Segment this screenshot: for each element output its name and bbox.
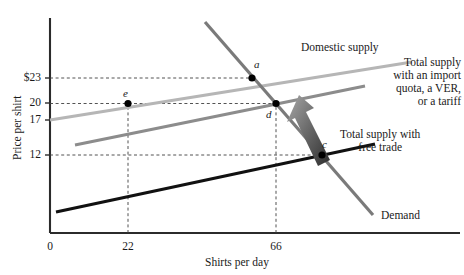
- y-tick-label-23: $23: [1, 71, 41, 84]
- point-label-a: a: [254, 58, 260, 70]
- total-supply-free-trade-label-line2: free trade: [340, 141, 420, 154]
- x-axis-title: Shirts per day: [205, 256, 269, 269]
- domestic-supply-label: Domestic supply: [301, 41, 379, 54]
- data-point-c: [318, 151, 325, 158]
- total-supply-quota-label-line4: or a tariff: [271, 95, 461, 108]
- total-supply-quota-label: Total supply with an import quota, a VER…: [271, 56, 461, 108]
- point-label-d: d: [266, 108, 272, 120]
- x-tick-label-22: 22: [113, 240, 143, 253]
- series-line-total-supply-free-trade: [56, 144, 375, 212]
- y-tick-label-17: 17: [1, 113, 41, 126]
- total-supply-quota-label-line1: Total supply: [271, 56, 461, 69]
- x-tick-label-66: 66: [261, 240, 291, 253]
- total-supply-quota-label-line2: with an import: [271, 69, 461, 82]
- y-tick-label-12: 12: [1, 148, 41, 161]
- total-supply-quota-label-line3: quota, a VER,: [271, 82, 461, 95]
- demand-label: Demand: [381, 209, 420, 222]
- data-point-e: [124, 100, 131, 107]
- point-label-e: e: [123, 87, 128, 99]
- total-supply-free-trade-label: Total supply with free trade: [340, 128, 420, 154]
- total-supply-free-trade-label-line1: Total supply with: [340, 128, 420, 141]
- data-point-a: [248, 74, 255, 81]
- point-label-c: c: [322, 138, 327, 150]
- y-tick-label-20: 20: [1, 96, 41, 109]
- economics-supply-demand-figure: Price per shirt $23 20 17 12 0 22 66 Shi…: [0, 0, 464, 275]
- x-tick-label-0: 0: [35, 240, 65, 253]
